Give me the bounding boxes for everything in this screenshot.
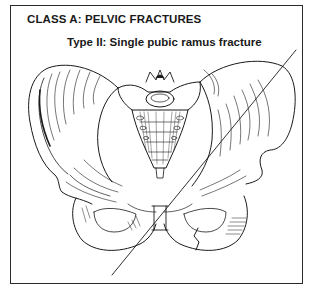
right-ilium [192,61,295,196]
right-pubis-ischium [164,196,247,250]
diagonal-indicator-line [112,50,296,275]
left-ilium [29,65,122,204]
sacrum [118,70,200,178]
left-pubis-ischium [73,198,156,250]
pelvis-illustration [0,0,312,292]
